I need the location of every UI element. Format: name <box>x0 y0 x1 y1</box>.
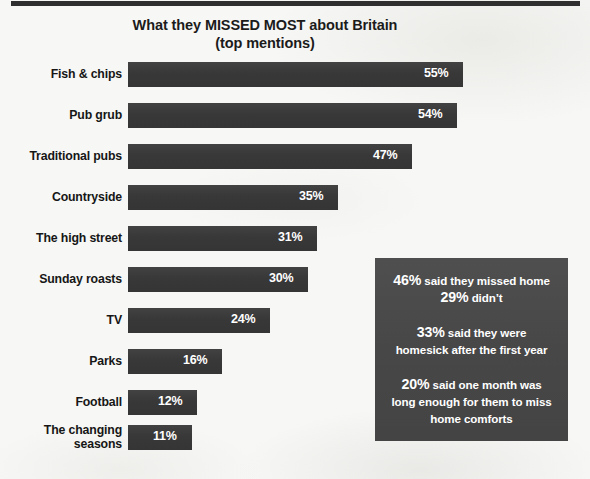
stat-text: said one month was <box>429 378 541 391</box>
bar-value-label: 11% <box>153 429 177 443</box>
bar-row: Fish & chips 55% <box>0 62 590 87</box>
stat-homesick-first-year: 33% said they were homesick after the fi… <box>383 324 560 358</box>
stat-line: 20% said one month was <box>383 376 560 393</box>
bar-category-label-line2: seasons <box>0 437 122 451</box>
statistics-callout-box: 46% said they missed home 29% didn’t 33%… <box>375 258 568 441</box>
stat-line: 29% didn’t <box>383 289 560 306</box>
bar-fill <box>128 144 412 169</box>
bar-fill <box>128 103 457 128</box>
bar-value-label: 12% <box>158 394 182 408</box>
stat-percent: 29% <box>440 289 468 305</box>
stat-percent: 46% <box>393 272 421 288</box>
bar-category-label: TV <box>0 313 122 327</box>
bar-category-label: The high street <box>0 231 122 245</box>
bar-value-label: 16% <box>183 353 207 367</box>
bar-category-label: Traditional pubs <box>0 149 122 163</box>
bar-category-label: Fish & chips <box>0 67 122 81</box>
stat-line: home comforts <box>383 410 560 427</box>
stat-percent: 20% <box>401 376 429 392</box>
stat-line: 33% said they were <box>383 324 560 341</box>
stat-missed-home: 46% said they missed home 29% didn’t <box>383 272 560 306</box>
bar-value-label: 55% <box>424 66 448 80</box>
bar-value-label: 31% <box>278 230 302 244</box>
bar-row: The high street 31% <box>0 226 590 251</box>
bar-category-label: Football <box>0 395 122 409</box>
bar-value-label: 47% <box>373 148 397 162</box>
stat-one-month-enough: 20% said one month was long enough for t… <box>383 376 560 427</box>
bar-category-label: Sunday roasts <box>0 272 122 286</box>
stat-line: long enough for them to miss <box>383 393 560 410</box>
bar-row: Countryside 35% <box>0 185 590 210</box>
stat-line: homesick after the first year <box>383 341 560 358</box>
bar-fill <box>128 349 222 374</box>
bar-category-label: Countryside <box>0 190 122 204</box>
stat-text: said they missed home <box>421 274 550 287</box>
chart-page: What they MISSED MOST about Britain (top… <box>0 0 590 479</box>
bar-value-label: 35% <box>299 189 323 203</box>
stat-percent: 33% <box>417 324 445 340</box>
bar-value-label: 54% <box>418 107 442 121</box>
bar-row: Traditional pubs 47% <box>0 144 590 169</box>
bar-category-label: Pub grub <box>0 108 122 122</box>
stat-text: said they were <box>445 326 527 339</box>
bar-row: Pub grub 54% <box>0 103 590 128</box>
stat-line: 46% said they missed home <box>383 272 560 289</box>
bar-category-label-line1: The changing <box>0 423 122 437</box>
bar-category-label: Parks <box>0 354 122 368</box>
bar-value-label: 30% <box>269 271 293 285</box>
bar-value-label: 24% <box>231 312 255 326</box>
bar-fill <box>128 62 463 87</box>
bar-category-label: The changing seasons <box>0 423 122 451</box>
stat-text: didn’t <box>469 291 503 304</box>
